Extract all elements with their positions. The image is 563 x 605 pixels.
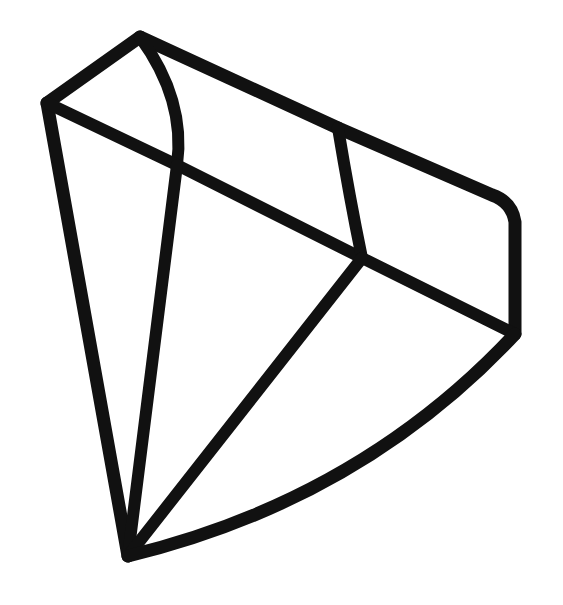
table-edge-lower-left xyxy=(47,103,177,165)
table-edge-lower-right xyxy=(177,165,362,258)
pavilion-bottom-curved-edge xyxy=(128,334,515,556)
crown-top-left-edge xyxy=(47,37,140,103)
girdle-right-edge xyxy=(362,258,515,334)
crown-far-right-edge xyxy=(338,128,515,334)
left-body-edge xyxy=(47,103,128,556)
illustration-canvas xyxy=(0,0,563,605)
diamond-gem-outline xyxy=(0,0,563,605)
crown-right-curved-rib xyxy=(338,128,362,258)
